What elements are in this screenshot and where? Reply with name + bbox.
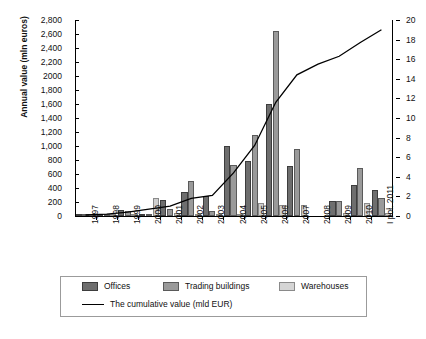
x-axis-tick-label: 2005 [259, 205, 269, 224]
x-axis-tick-label: I poł. 2011 [385, 185, 395, 224]
x-axis-tick-label: 2009 [343, 205, 353, 224]
y-axis-left-tick-label: 2,200 [41, 57, 62, 67]
x-axis-tick-label: 2000 [153, 205, 163, 224]
offices-swatch-icon [82, 282, 98, 291]
y-axis-right-tick-label: 8 [406, 133, 411, 143]
x-axis-tick-label: 1999 [132, 205, 142, 224]
x-axis-tick-label: 1998 [111, 205, 121, 224]
legend-item-warehouses: Warehouses [279, 281, 348, 291]
y-axis-left-tick-label: 200 [48, 197, 62, 207]
y-axis-right-tick-label: 20 [406, 15, 415, 25]
y-axis-right-tickmark [396, 40, 400, 41]
y-axis-left-tick-label: 600 [48, 169, 62, 179]
x-axis-tick-label: 2006 [280, 205, 290, 224]
x-axis-tick-label: 2007 [301, 205, 311, 224]
y-axis-right-tickmark [396, 59, 400, 60]
y-axis-left-tick-label: 1,200 [41, 127, 62, 137]
cumulative-line-icon [82, 304, 104, 305]
x-axis-tick-label: 2003 [216, 205, 226, 224]
y-axis-right-tick-label: 18 [406, 35, 415, 45]
y-axis-left-ticks: 02004006008001,0001,2001,4001,6001,80020… [14, 0, 62, 220]
warehouses-swatch-icon [279, 282, 295, 291]
y-axis-right-tickmark [396, 98, 400, 99]
y-axis-right-tick-label: 0 [406, 211, 411, 221]
y-axis-left-tick-label: 0 [57, 211, 62, 221]
y-axis-right-tick-label: 2 [406, 191, 411, 201]
x-axis-tick-label: 2001 [174, 205, 184, 224]
y-axis-right-tickmark [396, 216, 400, 217]
legend-label-offices: Offices [104, 281, 130, 291]
y-axis-right-tickmark [396, 157, 400, 158]
trading-buildings-swatch-icon [163, 282, 179, 291]
y-axis-left-tick-label: 1,600 [41, 99, 62, 109]
x-axis-tick-label: 2008 [322, 205, 332, 224]
y-axis-left-tick-label: 1,000 [41, 141, 62, 151]
y-axis-left-tick-label: 2,600 [41, 29, 62, 39]
y-axis-right-tickmark [396, 177, 400, 178]
y-axis-left-tick-label: 1,400 [41, 113, 62, 123]
legend-item-trading-buildings: Trading buildings [163, 281, 249, 291]
legend-label-cumulative-value: The cumulative value (mld EUR) [110, 299, 232, 309]
y-axis-right-ticks: 02468101214161820 [396, 0, 426, 220]
y-axis-right-tickmark [396, 20, 400, 21]
legend-item-offices: Offices [82, 281, 130, 291]
cumulative-value-line [75, 20, 392, 216]
legend-label-warehouses: Warehouses [301, 281, 348, 291]
y-axis-right-tick-label: 6 [406, 152, 411, 162]
x-axis-tick-label: 2010 [364, 205, 374, 224]
y-axis-right-tickmark [396, 118, 400, 119]
y-axis-left-tick-label: 1,800 [41, 85, 62, 95]
y-axis-left-tick-label: 400 [48, 183, 62, 193]
y-axis-right-tickmark [396, 138, 400, 139]
legend-label-trading-buildings: Trading buildings [185, 281, 249, 291]
x-axis-tick-label: 2002 [195, 205, 205, 224]
y-axis-right-tick-label: 12 [406, 93, 415, 103]
y-axis-right-tick-label: 10 [406, 113, 415, 123]
y-axis-right-tick-label: 4 [406, 172, 411, 182]
y-axis-right-tickmark [396, 196, 400, 197]
x-axis-tick-label: 1997 [90, 205, 100, 224]
chart-container: Annual value (mln euros) 02004006008001,… [0, 0, 426, 339]
y-axis-right-tick-label: 16 [406, 54, 415, 64]
chart-legend: Offices Trading buildings Warehouses The… [60, 276, 367, 317]
y-axis-left-tick-label: 800 [48, 155, 62, 165]
y-axis-left-tick-label: 2,400 [41, 43, 62, 53]
legend-item-cumulative-value: The cumulative value (mld EUR) [82, 299, 232, 309]
y-axis-left-tick-label: 2000 [43, 71, 62, 81]
plot-area [75, 20, 392, 216]
y-axis-right-tick-label: 14 [406, 74, 415, 84]
y-axis-right-tickmark [396, 79, 400, 80]
x-axis-tick-label: 2004 [238, 205, 248, 224]
y-axis-left-tick-label: 2,800 [41, 15, 62, 25]
